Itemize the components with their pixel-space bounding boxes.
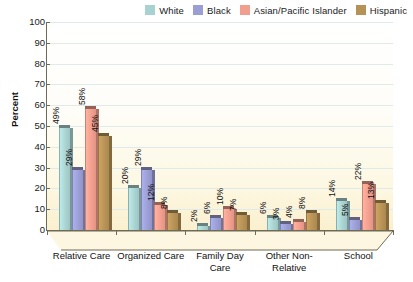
bar-value-label: 6% [202,201,212,213]
bar-value-label: 58% [77,88,87,105]
bar-top-face [59,125,70,128]
bar-value-label: 10% [215,188,225,205]
x-axis-line [47,230,393,232]
bar[interactable]: 4% [293,222,304,230]
bar-group: 20%29%12%8% [116,22,185,230]
y-tick-label: 90 [0,37,52,48]
legend-item-white[interactable]: White [145,5,184,16]
legend-item-asian-pacific-islander[interactable]: Asian/Pacific Islander [240,5,347,16]
bar-value-label: 8% [297,197,307,209]
bar-top-face [375,200,386,203]
bar-top-face [141,167,152,170]
x-tick-mark [47,230,48,235]
legend-item-hispanic[interactable]: Hispanic [356,5,407,16]
bar-value-label: 5% [340,203,350,215]
axis-floor-perspective [47,230,393,252]
y-tick-label: 30 [0,162,52,173]
y-tick-label: 0 [0,224,52,235]
bar[interactable]: 20% [128,188,139,230]
x-axis-tick-label: Relative Care [47,250,116,262]
bar-value-label: 49% [51,107,61,124]
bar-value-label: 29% [64,149,74,166]
bar-value-label: 22% [353,163,363,180]
bar-top-face [280,221,291,224]
bar-chart: WhiteBlackAsian/Pacific IslanderHispanic… [0,0,413,282]
bar-value-label: 20% [120,167,130,184]
legend-swatch-icon [145,5,155,15]
bar[interactable]: 29% [72,170,83,230]
bar-side-face [178,213,181,230]
bar-group: 6%3%4%8% [255,22,324,230]
legend-label: Asian/Pacific Islander [254,5,347,16]
y-tick-label: 80 [0,58,52,69]
bar-side-face [317,213,320,230]
x-tick-mark [393,230,394,235]
legend-swatch-icon [356,5,366,15]
chart-legend: WhiteBlackAsian/Pacific IslanderHispanic [0,2,413,18]
bar-top-face [197,223,208,226]
bar-group: 14%5%22%13% [324,22,393,230]
bar[interactable]: 8% [167,213,178,230]
bar-side-face [386,203,389,230]
y-axis-label: Percent [9,80,20,140]
bar-value-label: 7% [228,199,238,211]
x-axis-tick-label: Organized Care [116,250,185,262]
bar-side-face [247,215,250,230]
x-axis-tick-label: Family Day Care [185,250,254,273]
x-tick-mark [255,230,256,235]
bar-top-face [210,215,221,218]
bar[interactable]: 49% [59,128,70,230]
x-axis-labels: Relative CareOrganized CareFamily Day Ca… [47,250,393,282]
bar-top-face [167,210,178,213]
y-tick-label: 40 [0,141,52,152]
bar-value-label: 2% [189,210,199,222]
bar-top-face [128,185,139,188]
bar-top-face [349,217,360,220]
bar[interactable]: 7% [236,215,247,230]
bar-value-label: 6% [258,201,268,213]
x-tick-mark [116,230,117,235]
bar[interactable]: 45% [98,136,109,230]
legend-label: White [159,5,184,16]
bar-value-label: 8% [159,197,169,209]
x-axis-tick-label: School [324,250,393,262]
y-tick-label: 10 [0,203,52,214]
bar-value-label: 14% [327,180,337,197]
y-tick-label: 20 [0,182,52,193]
bar-top-face [72,167,83,170]
bar-value-label: 4% [284,205,294,217]
bar[interactable]: 6% [210,218,221,230]
x-tick-mark [324,230,325,235]
y-tick-label: 100 [0,16,52,27]
legend-item-black[interactable]: Black [193,5,231,16]
x-tick-mark [185,230,186,235]
x-axis-tick-label: Other Non-Relative [255,250,324,273]
bar-value-label: 12% [146,184,156,201]
bar-side-face [109,136,112,230]
bar-group: 2%6%10%7% [185,22,254,230]
bar-top-face [306,210,317,213]
bar[interactable]: 10% [223,209,234,230]
bar-top-face [293,219,304,222]
bar-groups: 49%29%58%45%20%29%12%8%2%6%10%7%6%3%4%8%… [47,22,393,230]
bar-value-label: 3% [271,207,281,219]
legend-swatch-icon [193,5,203,15]
bar-top-face [85,106,96,109]
legend-label: Hispanic [370,5,407,16]
bar-value-label: 45% [90,115,100,132]
bar-value-label: 29% [133,149,143,166]
bar-group: 49%29%58%45% [47,22,116,230]
bar-value-label: 13% [366,182,376,199]
bar-top-face [98,133,109,136]
legend-swatch-icon [240,5,250,15]
bar[interactable]: 13% [375,203,386,230]
legend-label: Black [207,5,231,16]
bar-top-face [236,212,247,215]
bar[interactable]: 8% [306,213,317,230]
bar[interactable]: 5% [349,220,360,230]
bar-top-face [336,198,347,201]
